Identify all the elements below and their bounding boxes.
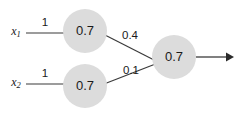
input-label-x2: x2 — [10, 75, 21, 90]
weight-top-to-output-label: 0.4 — [122, 29, 139, 41]
hidden-node-top-value: 0.7 — [76, 23, 94, 38]
input-label-x1-subscript: 1 — [17, 29, 21, 39]
input-label-x1: x1 — [10, 24, 21, 39]
output-node-value: 0.7 — [165, 49, 183, 64]
output-arrow-head — [226, 53, 234, 62]
input-weight-x2-label: 1 — [42, 67, 48, 79]
network-svg-canvas: 0.7 0.7 0.7 x1 x2 1 1 0.4 0.1 — [0, 0, 241, 116]
input-label-x2-subscript: 2 — [17, 80, 22, 90]
weight-bottom-to-output-label: 0.1 — [123, 64, 139, 76]
neural-network-diagram: 0.7 0.7 0.7 x1 x2 1 1 0.4 0.1 — [0, 0, 241, 116]
input-weight-x1-label: 1 — [42, 16, 48, 28]
hidden-node-bottom-value: 0.7 — [76, 78, 94, 93]
